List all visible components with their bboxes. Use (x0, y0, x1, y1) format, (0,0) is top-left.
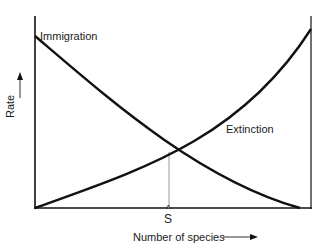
immigration-label: Immigration (40, 30, 97, 42)
extinction-label: Extinction (226, 123, 274, 135)
immigration-curve (35, 36, 300, 208)
s-hat-label: S (164, 212, 172, 226)
extinction-curve (35, 29, 311, 208)
x-axis-label: Number of species (133, 231, 225, 243)
y-arrow-icon (17, 72, 23, 80)
x-arrow-icon (250, 234, 258, 240)
y-axis-label: Rate (4, 95, 16, 118)
